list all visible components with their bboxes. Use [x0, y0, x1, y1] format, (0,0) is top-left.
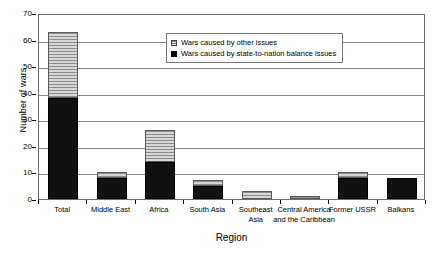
x-tick-mark: [38, 200, 39, 204]
x-tick-mark: [183, 200, 184, 204]
x-tick-mark: [328, 200, 329, 204]
y-axis-ticks: 706050403020100: [0, 0, 36, 258]
x-axis-ticks: [38, 200, 425, 204]
x-axis-labels: TotalMiddle EastAfricaSouth AsiaSoutheas…: [38, 205, 425, 233]
bar-segment-other-issues: [290, 196, 320, 199]
x-tick-mark: [377, 200, 378, 204]
y-tick-label: 60: [23, 37, 32, 45]
x-axis-label-line: Balkans: [364, 205, 438, 215]
y-tick-mark: [32, 67, 36, 68]
y-tick-mark: [32, 200, 36, 201]
bar-segment-state-to-nation: [387, 178, 417, 199]
y-tick-label: 70: [23, 10, 32, 18]
bar-segment-other-issues: [338, 172, 368, 177]
y-tick-mark: [32, 41, 36, 42]
x-tick-mark: [232, 200, 233, 204]
bar-segment-other-issues: [145, 130, 175, 162]
legend-item-state-to-nation: Wars caused by state-to-nation balance i…: [171, 48, 336, 59]
bar-segment-other-issues: [48, 32, 78, 98]
bar-segment-state-to-nation: [338, 178, 368, 199]
x-tick-mark: [425, 200, 426, 204]
bar-total: [48, 13, 78, 199]
legend-label-other-issues: Wars caused by other issues: [181, 38, 277, 47]
y-tick-label: 40: [23, 90, 32, 98]
bar-segment-other-issues: [242, 191, 272, 199]
y-tick-mark: [32, 147, 36, 148]
bar-segment-state-to-nation: [48, 98, 78, 199]
bar-segment-state-to-nation: [145, 162, 175, 199]
x-tick-mark: [135, 200, 136, 204]
bar-middle-east: [97, 13, 127, 199]
bar-segment-other-issues: [97, 172, 127, 177]
y-tick-label: 20: [23, 143, 32, 151]
bar-segment-state-to-nation: [97, 178, 127, 199]
chart-container: Number of wars 706050403020100 Wars caus…: [0, 0, 438, 258]
legend-label-state-to-nation: Wars caused by state-to-nation balance i…: [181, 49, 336, 58]
y-tick-label: 30: [23, 116, 32, 124]
bar-balkans: [387, 13, 417, 199]
y-tick-label: 50: [23, 63, 32, 71]
x-axis-label: Balkans: [364, 205, 438, 215]
y-tick-mark: [32, 173, 36, 174]
legend-item-other-issues: Wars caused by other issues: [171, 37, 336, 48]
y-tick-mark: [32, 120, 36, 121]
y-tick-mark: [32, 14, 36, 15]
chart-legend: Wars caused by other issues Wars caused …: [166, 33, 343, 63]
legend-swatch-hatch-icon: [171, 40, 177, 46]
bar-segment-other-issues: [193, 180, 223, 185]
bar-segment-state-to-nation: [193, 186, 223, 199]
legend-swatch-solid-icon: [171, 51, 177, 57]
x-tick-mark: [86, 200, 87, 204]
y-tick-label: 10: [23, 169, 32, 177]
x-axis-label-line: and the Caribbean: [267, 215, 341, 225]
y-tick-mark: [32, 94, 36, 95]
x-axis-title: Region: [38, 232, 425, 243]
x-tick-mark: [280, 200, 281, 204]
